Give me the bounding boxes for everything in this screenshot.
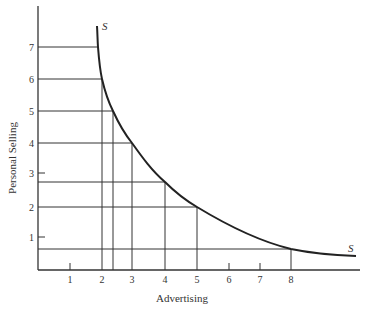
vertical-reference-lines [102, 79, 291, 270]
x-tick-labels: 1 2 3 4 5 6 7 8 [68, 274, 294, 285]
curve-label-end: S [348, 242, 354, 254]
x-tick-7: 7 [258, 274, 263, 285]
y-tick-4: 4 [29, 138, 34, 149]
y-tick-labels: 1 2 3 4 5 6 7 [29, 42, 34, 243]
x-axis-title: Advertising [156, 292, 208, 304]
y-tick-3: 3 [29, 168, 34, 179]
curve-label-top: S [102, 20, 108, 32]
isoquant-chart: S S 1 2 3 4 5 6 7 8 1 2 3 4 5 6 7 Advert… [0, 0, 367, 310]
x-tick-2: 2 [100, 274, 105, 285]
y-tick-5: 5 [29, 106, 34, 117]
x-tick-5: 5 [195, 274, 200, 285]
y-tick-2: 2 [29, 202, 34, 213]
isoquant-curve-s [97, 26, 356, 256]
x-tick-3: 3 [130, 274, 135, 285]
y-tick-7: 7 [29, 42, 34, 53]
y-tick-6: 6 [29, 74, 34, 85]
y-tick-1: 1 [29, 232, 34, 243]
x-tick-1: 1 [68, 274, 73, 285]
x-tick-6: 6 [227, 274, 232, 285]
axis-ticks [38, 173, 260, 270]
x-tick-4: 4 [163, 274, 168, 285]
x-tick-8: 8 [289, 274, 294, 285]
y-axis-title: Personal Selling [6, 122, 18, 194]
